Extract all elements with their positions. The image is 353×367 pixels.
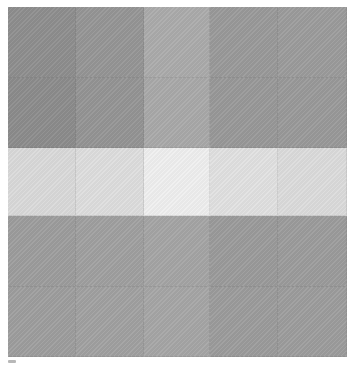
grid-cell <box>8 78 76 148</box>
grid-cell <box>210 287 278 357</box>
grid-cell <box>76 78 144 148</box>
grid-cell <box>210 148 278 216</box>
grid-cell <box>278 287 347 357</box>
grid-cell <box>278 148 347 216</box>
grid-cell <box>210 7 278 78</box>
grid-cell <box>76 287 144 357</box>
grid-cell <box>210 78 278 148</box>
corner-mark <box>8 360 16 363</box>
grid-cell <box>144 216 210 287</box>
grid-cell <box>278 216 347 287</box>
grid-cell <box>76 148 144 216</box>
grid-cell <box>8 287 76 357</box>
grid-cell <box>144 287 210 357</box>
grid-cell <box>144 78 210 148</box>
grid-cell <box>278 78 347 148</box>
grid-cell <box>8 216 76 287</box>
grid-cell <box>278 7 347 78</box>
grid-cell <box>144 148 210 216</box>
grid-painting <box>8 7 347 357</box>
grid-cell <box>76 216 144 287</box>
grid-cell <box>8 148 76 216</box>
grid-cell <box>210 216 278 287</box>
grid-cell <box>144 7 210 78</box>
grid-cell <box>76 7 144 78</box>
grid-cell <box>8 7 76 78</box>
